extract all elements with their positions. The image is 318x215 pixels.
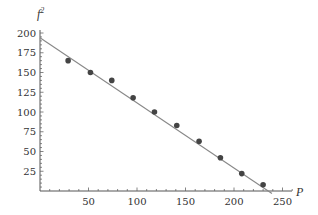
x-tick-label: 100 [127, 196, 146, 207]
x-tick-label: 50 [82, 196, 95, 207]
y-tick-label: 50 [23, 146, 36, 157]
data-point [260, 182, 266, 188]
data-point [218, 155, 224, 161]
fit-line [40, 38, 272, 194]
data-point [109, 78, 115, 84]
data-point [88, 70, 94, 76]
data-point [239, 171, 245, 177]
axes: 50100150200250255075100125150175200 [17, 28, 292, 208]
data-point [65, 58, 71, 64]
data-point [152, 109, 158, 115]
x-tick-label: 200 [224, 196, 243, 207]
y-tick-label: 100 [17, 107, 36, 118]
regression-line [40, 38, 272, 194]
data-point [196, 138, 202, 144]
y-axis-label-sup: 2 [40, 6, 44, 15]
x-tick-label: 250 [273, 196, 292, 207]
x-tick-label: 150 [176, 196, 195, 207]
y-tick-label: 75 [23, 126, 36, 137]
y-axis-label: f2 [37, 6, 44, 21]
y-tick-label: 200 [17, 28, 36, 39]
data-point [174, 123, 180, 129]
y-tick-label: 25 [23, 166, 36, 177]
scatter-chart: 50100150200250255075100125150175200 P f2 [0, 0, 318, 215]
y-tick-label: 125 [17, 87, 36, 98]
x-axis-label: P [295, 185, 304, 199]
data-point [130, 95, 136, 101]
y-tick-label: 175 [17, 47, 36, 58]
y-tick-label: 150 [17, 67, 36, 78]
